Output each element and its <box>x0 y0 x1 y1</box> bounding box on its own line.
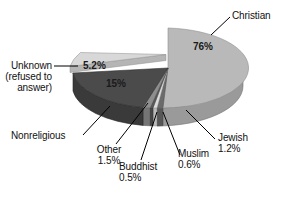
label-nonreligious: Nonreligious <box>11 130 65 142</box>
label-unknown-line-2: (refused to <box>0 71 52 83</box>
slice-side-buddhist <box>150 108 153 126</box>
value-nonreligious: 15% <box>106 78 126 89</box>
label-buddhist: Buddhist <box>119 161 157 173</box>
slice-side-other <box>143 107 150 125</box>
leader-line-christian <box>211 17 230 35</box>
value-buddhist: 0.5% <box>119 172 141 184</box>
slice-side-jewish <box>157 108 163 126</box>
label-other: Other <box>88 144 130 156</box>
label-muslim: Muslim <box>178 148 209 160</box>
label-jewish: Jewish <box>218 132 248 144</box>
label-unknown-line-3: answer) <box>0 82 52 94</box>
label-unknown-line-1: Unknown <box>0 60 52 72</box>
value-unknown: 5.2% <box>83 60 106 71</box>
value-christian: 76% <box>193 41 213 52</box>
label-christian: Christian <box>232 10 271 22</box>
value-jewish: 1.2% <box>218 143 240 155</box>
pie-chart-figure: Christian 76% Unknown (refused to answer… <box>0 0 290 198</box>
value-muslim: 0.6% <box>178 159 200 171</box>
